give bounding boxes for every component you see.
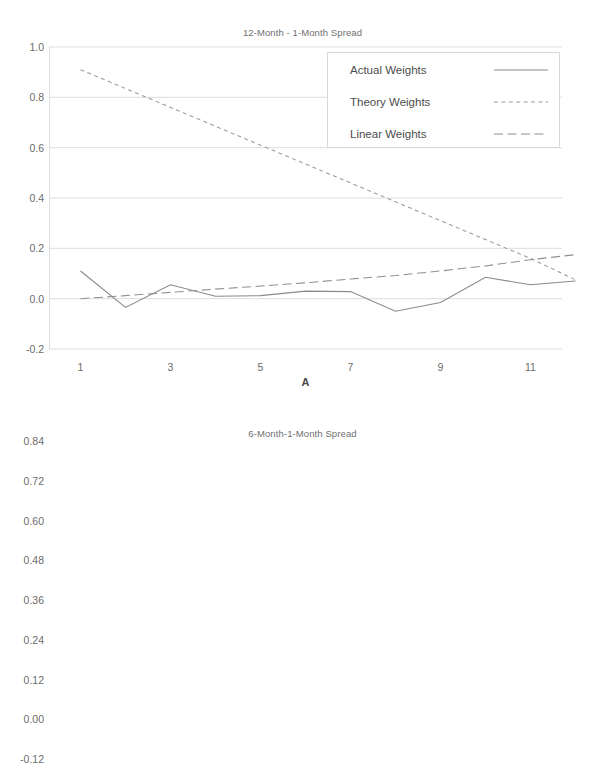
legend-item-label: Theory Weights (350, 96, 430, 108)
y-axis-tick-labels: -0.120.000.120.240.360.480.600.720.84 (0, 441, 44, 759)
y-axis-tick-label: 0.6 (29, 142, 44, 154)
y-axis-tick-label: -0.2 (26, 343, 44, 355)
x-axis-tick-label: 9 (438, 361, 444, 373)
y-axis-tick-label: 0.36 (24, 594, 44, 606)
legend-item-label: Linear Weights (350, 128, 427, 140)
y-axis-tick-label: 0.72 (24, 475, 44, 487)
dashed-line-icon (494, 129, 548, 139)
y-axis-tick-label: 0.84 (24, 435, 44, 447)
y-axis-tick-label: 0.48 (24, 554, 44, 566)
y-axis-tick-label: 1.0 (29, 41, 44, 53)
x-axis-tick-label: 1 (78, 361, 84, 373)
y-axis-tick-labels: -0.20.00.20.40.60.81.0 (0, 47, 44, 349)
y-axis-tick-label: 0.2 (29, 242, 44, 254)
chart-panel-six-month-spread: 6-Month-1-Month Spread -0.120.000.120.24… (0, 400, 605, 773)
y-axis-tick-label: 0.8 (29, 91, 44, 103)
y-axis-tick-label: 0.0 (29, 293, 44, 305)
y-axis-tick-label: -0.12 (20, 753, 44, 765)
legend-item[interactable]: Theory Weights (328, 86, 559, 118)
dotted-line-icon (494, 97, 548, 107)
x-axis-tick-label: 3 (168, 361, 174, 373)
y-axis-tick-label: 0.4 (29, 192, 44, 204)
legend-item[interactable]: Actual Weights (328, 54, 559, 86)
legend-item[interactable]: Linear Weights (328, 118, 559, 150)
y-axis-tick-label: 0.12 (24, 674, 44, 686)
x-axis-tick-label: 5 (258, 361, 264, 373)
y-axis-tick-label: 0.00 (24, 713, 44, 725)
legend-item-label: Actual Weights (350, 64, 427, 76)
y-axis-tick-label: 0.60 (24, 515, 44, 527)
chart-title: 6-Month-1-Month Spread (0, 428, 605, 439)
chart-panel-twelve-month-spread: 12-Month - 1-Month Spread -0.20.00.20.40… (0, 0, 605, 400)
solid-line-icon (494, 65, 548, 75)
x-axis-tick-labels: 1357911 (49, 361, 562, 377)
x-axis-title: A (302, 376, 310, 388)
y-axis-tick-label: 0.24 (24, 634, 44, 646)
chart-title: 12-Month - 1-Month Spread (0, 27, 605, 38)
x-axis-tick-label: 11 (525, 361, 536, 373)
legend: Actual WeightsTheory WeightsLinear Weigh… (327, 52, 560, 148)
series-line (81, 255, 576, 299)
series-line (81, 271, 576, 311)
x-axis-tick-label: 7 (348, 361, 354, 373)
